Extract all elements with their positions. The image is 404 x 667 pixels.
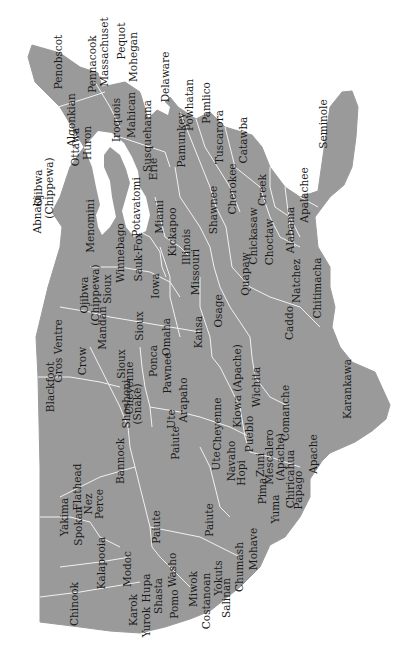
tribe-label-mahican: Mahican	[126, 92, 137, 138]
tribe-label-washo: Washo	[167, 553, 178, 588]
tribe-label-omaha: Omaha	[161, 318, 172, 356]
tribal-map: AbnakiPenobscotPennacookMassachusetPequo…	[0, 0, 404, 667]
tribe-label-miami: Miami	[154, 200, 165, 234]
map-frame: AbnakiPenobscotPennacookMassachusetPequo…	[0, 0, 404, 667]
tribe-label-pawnee: Pawnee	[162, 352, 173, 393]
tribe-label-kansa: Kansa	[193, 316, 204, 349]
tribe-label-ute_south: Ute	[211, 451, 222, 470]
tribe-label-modoc: Modoc	[122, 551, 133, 587]
tribe-label-potavatomi: Potavatomi	[131, 177, 142, 237]
tribe-label-massachuset: Massachuset	[99, 17, 110, 86]
tribe-label-mohave: Mohave	[248, 528, 259, 570]
tribe-label-yurok: Yurok	[141, 607, 152, 638]
tribe-label-paiute_north: Paiute	[170, 426, 181, 459]
tribe-label-pennacook: Pennacook	[87, 35, 98, 92]
tribe-label-karok: Karok	[128, 594, 139, 626]
tribe-label-salinan: Salinan	[221, 578, 232, 618]
tribe-label-apache: Apache	[308, 434, 319, 473]
tribe-label-mandan: Mandan	[97, 306, 108, 350]
tribe-label-shasta: Shasta	[153, 578, 164, 614]
tribe-label-hupa: Hupa	[141, 574, 152, 603]
tribe-label-karankawa: Karankawa	[342, 359, 353, 419]
tribe-label-erie: Erie	[148, 158, 159, 180]
tribe-label-winnebago: Winnebago	[115, 223, 126, 283]
tribe-label-cherokee: Cherokee	[227, 163, 238, 214]
tribe-label-pueblo: Pueblo	[244, 416, 255, 452]
tribe-label-sioux_west: Sioux	[116, 349, 127, 379]
tribe-label-yuma: Yuma	[270, 495, 281, 524]
tribe-label-wichita: Wichita	[251, 367, 262, 407]
tribe-label-choctaw: Choctaw	[264, 219, 275, 265]
tribe-label-miwok: Miwok	[188, 571, 199, 607]
tribe-label-creek: Creek	[257, 174, 268, 206]
tribe-label-penobscot: Penobscot	[53, 35, 64, 89]
tribe-label-iowa: Iowa	[150, 273, 161, 299]
tribe-label-arapaho: Arapaho	[178, 378, 189, 423]
tribe-label-quapaw: Quapaw	[240, 252, 251, 296]
tribe-label-blackfoot: Blackfoot	[45, 362, 56, 412]
tribe-label-kickapoo: Kickapoo	[167, 207, 178, 256]
tribe-label-mohegan: Mohegan	[128, 32, 139, 82]
tribe-label-delaware: Delaware	[160, 52, 171, 103]
tribe-label-alabama: Alabama	[285, 207, 296, 253]
tribe-label-sioux_east: Sioux	[102, 274, 113, 304]
tribe-label-crow: Crow	[77, 347, 88, 375]
tribe-label-tuscarora: Tuscarora	[214, 110, 225, 164]
tribe-label-iroquois: Iroquois	[111, 98, 122, 142]
tribe-label-hopi: Hopi	[236, 460, 247, 486]
tribe-label-sioux_mid: Sioux	[134, 311, 145, 341]
tribe-label-osage: Osage	[213, 294, 224, 327]
tribe-label-chumash: Chumash	[234, 542, 245, 592]
tribe-label-pequot: Pequot	[116, 23, 127, 60]
tribe-label-powhatan: Powhatan	[184, 79, 195, 131]
tribe-label-chitimacha: Chitimacha	[312, 258, 323, 319]
tribe-label-kalapooia: Kalapooia	[96, 537, 107, 590]
tribe-label-ottawa: Ottawa	[70, 128, 81, 167]
tribe-label-missouri: Missouri	[190, 249, 201, 295]
tribe-label-chinook: Chinook	[69, 582, 80, 626]
tribe-label-paiute_south: Paiute	[204, 503, 215, 536]
tribe-label-catawba: Catawba	[238, 117, 249, 164]
tribe-label-menomini: Menomini	[85, 199, 96, 252]
tribe-label-seminole: Seminole	[318, 99, 329, 148]
tribe-label-flathead: Flathead	[72, 463, 83, 510]
tribe-label-zuni: Zuni	[255, 453, 266, 477]
tribe-label-pomo: Pomo	[169, 589, 180, 618]
tribe-label-shawnee: Shawnee	[208, 186, 219, 234]
tribe-label-spokan: Spokan	[73, 506, 84, 546]
tribe-label-yakima: Yakima	[59, 498, 70, 536]
tribe-label-kiowa_apache: Kiowa (Apache)	[232, 344, 243, 428]
tribe-label-shoshoni_snake: Shoshoni(Snake)	[121, 380, 143, 429]
tribe-label-cheyenne_south: Cheyenne	[212, 398, 223, 451]
tribe-label-caddo: Caddo	[284, 306, 295, 340]
tribe-label-bannock: Bannock	[115, 438, 126, 484]
tribe-label-paiute_mid: Paiute	[151, 510, 162, 543]
tribe-label-ojibwa_chippewa_north: Ojibwa(Chippewa)	[33, 157, 55, 218]
tribe-label-ponca: Ponca	[148, 345, 159, 377]
tribe-label-huron: Huron	[82, 126, 93, 160]
tribe-label-pamlico: Pamlico	[201, 82, 212, 124]
tribe-label-sauk_fox: Sauk-Fox	[133, 233, 144, 282]
tribe-label-nez_perce: NezPerce	[83, 489, 105, 519]
tribe-label-natchez: Natchez	[291, 259, 302, 303]
tribe-label-pima: Pima	[257, 478, 268, 505]
tribe-label-papago: Papago	[293, 471, 304, 510]
tribe-label-apalachee: Apalachee	[299, 167, 310, 222]
tribe-label-costanoan: Costanoan	[201, 573, 212, 629]
